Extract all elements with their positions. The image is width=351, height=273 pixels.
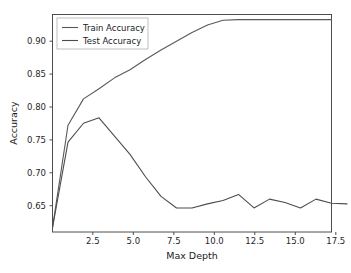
x-tick-label-5.0: 5.0 <box>127 236 141 246</box>
y-axis-title: Accuracy <box>8 101 19 145</box>
x-tick-label-15.0: 15.0 <box>286 236 305 246</box>
x-tick-label-12.5: 12.5 <box>245 236 264 246</box>
y-tick-label-0.85: 0.85 <box>27 69 46 79</box>
chart-figure: 2.5 5.0 7.5 10.0 12.5 15.0 17.5 0.65 0.7… <box>0 0 351 273</box>
x-tick-label-2.5: 2.5 <box>86 236 100 246</box>
chart-legend: Train Accuracy Test Accuracy <box>57 18 148 49</box>
y-tick-label-0.70: 0.70 <box>27 168 46 178</box>
legend-label-train: Train Accuracy <box>82 23 145 33</box>
y-tick-label-0.75: 0.75 <box>27 135 46 145</box>
x-tick-label-17.5: 17.5 <box>326 236 345 246</box>
accuracy-vs-max-depth-line-chart: 2.5 5.0 7.5 10.0 12.5 15.0 17.5 0.65 0.7… <box>0 0 351 273</box>
x-tick-label-10.0: 10.0 <box>205 236 224 246</box>
y-tick-label-0.80: 0.80 <box>27 102 46 112</box>
y-tick-label-0.65: 0.65 <box>27 201 46 211</box>
legend-label-test: Test Accuracy <box>82 36 141 46</box>
x-tick-label-7.5: 7.5 <box>167 236 181 246</box>
x-axis-title: Max Depth <box>166 250 218 261</box>
y-tick-label-0.90: 0.90 <box>27 36 46 46</box>
